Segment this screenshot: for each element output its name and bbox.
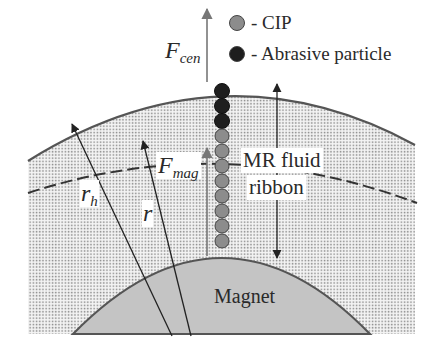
cip-particle (215, 144, 229, 158)
legend-item-abrasive: - Abrasive particle (229, 43, 391, 65)
f-mag-label: Fmag (156, 152, 201, 179)
r-label: r (142, 200, 153, 227)
cip-particle (215, 234, 229, 248)
particle-chain (215, 84, 230, 249)
mr-fluid-ribbon-label-line2: ribbon (247, 175, 306, 200)
cip-particle (215, 159, 229, 173)
abrasive-particle (215, 84, 230, 99)
cip-particle (215, 174, 229, 188)
abrasive-legend-icon (229, 46, 245, 62)
abrasive-particle (215, 114, 230, 129)
cip-particle (215, 129, 229, 143)
cip-particle (215, 204, 229, 218)
legend-item-cip: - CIP (229, 12, 292, 34)
abrasive-particle (215, 99, 230, 114)
cip-legend-icon (229, 15, 245, 31)
cip-particle (215, 189, 229, 203)
legend-label-abrasive: - Abrasive particle (251, 43, 391, 65)
cip-particle (215, 219, 229, 233)
r-h-label: rh (80, 180, 99, 207)
legend-label-cip: - CIP (251, 12, 292, 34)
magnet-label: Magnet (214, 285, 275, 308)
mr-fluid-ribbon-label-line1: MR fluid (241, 148, 323, 173)
f-cen-label: Fcen (165, 37, 201, 64)
